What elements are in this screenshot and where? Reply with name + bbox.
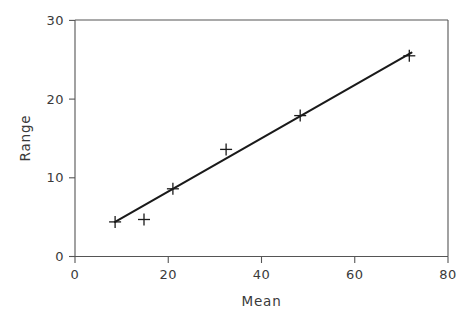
x-tick-label-60: 60 — [346, 267, 364, 282]
y-tick-marks — [69, 20, 75, 256]
data-point-marker — [167, 183, 179, 195]
scatter-plot: 0 10 20 30 0 20 40 60 80 Mean Range — [0, 0, 474, 322]
x-tick-marks — [75, 257, 448, 264]
x-tick-label-80: 80 — [439, 267, 457, 282]
fit-line — [115, 53, 411, 222]
x-tick-label-20: 20 — [159, 267, 177, 282]
chart-container: 0 10 20 30 0 20 40 60 80 Mean Range — [0, 0, 474, 322]
data-point-marker — [220, 143, 232, 155]
data-point-marker — [403, 50, 415, 62]
data-point-marker — [138, 214, 150, 226]
x-tick-label-0: 0 — [71, 267, 80, 282]
y-tick-label-30: 30 — [46, 13, 64, 28]
y-axis-title: Range — [17, 115, 33, 162]
y-tick-label-10: 10 — [46, 170, 64, 185]
y-tick-label-0: 0 — [55, 249, 64, 264]
data-point-marker — [109, 216, 121, 228]
y-tick-label-20: 20 — [46, 92, 64, 107]
x-axis-title: Mean — [242, 293, 282, 309]
x-tick-label-40: 40 — [253, 267, 271, 282]
